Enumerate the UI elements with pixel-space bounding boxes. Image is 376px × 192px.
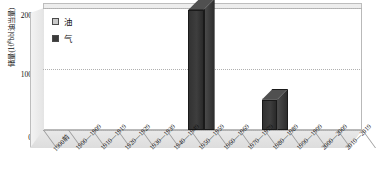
bar-1980—1989-气[interactable]	[262, 89, 288, 131]
legend-label-oil: 油	[64, 15, 73, 27]
legend-label-gas: 气	[64, 32, 73, 44]
legend-swatch-gas	[52, 35, 59, 42]
y-tick-200: 200	[10, 11, 32, 20]
y-tick-0: 0	[10, 133, 32, 142]
x-axis-labels: 1900前1900—19091910—19191920—19291930—193…	[30, 140, 362, 192]
chart-legend: 油 气	[52, 14, 73, 48]
bar-front-face	[188, 10, 203, 130]
legend-item-gas[interactable]: 气	[52, 31, 73, 45]
bar-1950—1959-气[interactable]	[188, 0, 214, 130]
plot-left-wall	[30, 8, 44, 148]
y-axis-ticks: 200 100 0	[0, 0, 32, 192]
y-tick-100: 100	[10, 70, 32, 79]
bar-side-face	[204, 0, 215, 130]
legend-item-oil[interactable]: 油	[52, 14, 73, 28]
legend-swatch-oil	[52, 18, 59, 25]
